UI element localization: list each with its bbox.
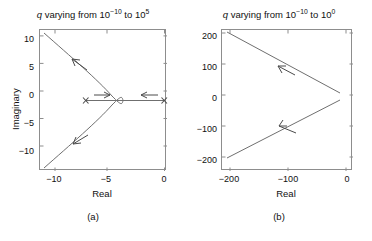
locus-curve-a <box>44 33 164 168</box>
plot-title-a-joiner: to 10 <box>122 9 146 20</box>
locus-upper-branch-b <box>227 32 340 93</box>
y-tick-label-b-3: −100 <box>186 124 217 134</box>
y-tick-label-a-1: 5 <box>7 62 34 72</box>
x-tick-label-b-1: −100 <box>272 174 304 184</box>
direction-arrows-b <box>278 66 296 133</box>
locus-curve-b <box>227 32 340 158</box>
y-tick-label-b-1: 100 <box>186 62 217 72</box>
plot-svg-a <box>40 30 167 171</box>
y-tick-label-b-2: 0 <box>186 93 217 103</box>
x-tick-label-a-2: 0 <box>151 174 177 184</box>
plot-title-a-exponent-start: −10 <box>110 8 122 15</box>
direction-arrow-real-left-a <box>94 92 110 98</box>
y-tick-label-a-0: 10 <box>7 34 34 44</box>
x-axis-label-b: Real <box>246 188 326 199</box>
plot-title-b: q varying from 10−10 to 100 <box>186 9 372 20</box>
plot-title-a: q varying from 10−10 to 105 <box>0 9 186 20</box>
direction-arrow-upper-a <box>72 59 87 70</box>
plot-title-a-exponent-end: 5 <box>145 8 149 15</box>
plot-title-b-exponent-end: 0 <box>331 8 335 15</box>
locus-upper-branch-a <box>44 33 123 104</box>
y-axis-label-a: Imaginary <box>10 88 21 130</box>
figure-root-locus-pair: q varying from 10−10 to 105 10 5 0 −5 −1… <box>0 0 372 241</box>
plot-title-b-joiner: to 10 <box>308 9 332 20</box>
x-axis-label-a: Real <box>62 188 142 199</box>
plot-area-b <box>221 29 352 170</box>
plot-title-b-middle: varying from 10 <box>228 9 296 20</box>
x-tick-label-b-2: 0 <box>334 174 360 184</box>
direction-arrow-real-right-a <box>141 92 158 98</box>
subplot-panel-b: q varying from 10−10 to 100 200 100 0 −1… <box>186 0 372 241</box>
plot-area-a <box>39 29 166 170</box>
x-tick-label-a-1: −5 <box>93 174 119 184</box>
tick-marks-b <box>222 30 353 171</box>
x-tick-label-b-0: −200 <box>213 174 245 184</box>
y-tick-label-b-4: −200 <box>186 155 217 165</box>
locus-lower-branch-b <box>227 100 340 158</box>
y-tick-label-a-4: −10 <box>7 146 34 156</box>
subplot-label-b: (b) <box>186 211 372 222</box>
subplot-panel-a: q varying from 10−10 to 105 10 5 0 −5 −1… <box>0 0 186 241</box>
plot-svg-b <box>222 30 353 171</box>
y-tick-label-b-0: 200 <box>186 31 217 41</box>
subplot-label-a: (a) <box>0 211 186 222</box>
locus-lower-branch-a <box>44 97 123 168</box>
direction-arrow-lower-a <box>73 135 88 144</box>
x-tick-label-a-0: −10 <box>41 174 67 184</box>
plot-title-b-exponent-start: −10 <box>296 8 308 15</box>
plot-title-a-middle: varying from 10 <box>42 9 110 20</box>
